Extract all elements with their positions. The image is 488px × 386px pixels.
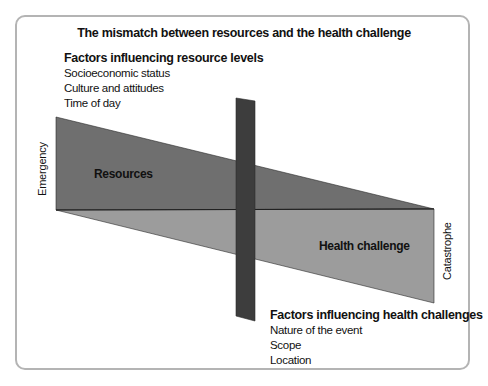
health-factor-item: Location xyxy=(270,353,483,368)
resources-label: Resources xyxy=(94,167,153,181)
health-factors-heading: Factors influencing health challenges xyxy=(270,307,483,323)
health-challenge-label: Health challenge xyxy=(319,239,410,253)
health-factors: Factors influencing health challenges Na… xyxy=(270,307,483,368)
emergency-label: Emergency xyxy=(36,142,48,196)
gap-bar xyxy=(236,98,255,321)
catastrophe-label: Catastrophe xyxy=(441,222,453,280)
health-factor-item: Scope xyxy=(270,338,483,353)
health-factor-item: Nature of the event xyxy=(270,323,483,338)
